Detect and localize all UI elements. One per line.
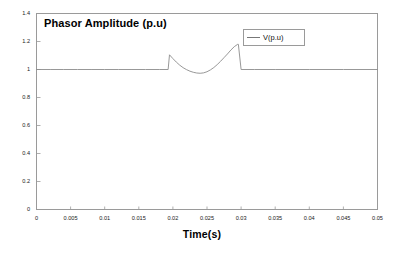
y-tick-label: 0.4 [0,150,30,156]
y-tick-label: 1.2 [0,38,30,44]
y-tick-label: 1 [0,66,30,72]
y-tick-label: 0.2 [0,178,30,184]
legend-line-sample [247,37,260,38]
chart-legend: V(p.u) [243,29,305,46]
x-tick-label: 0.05 [358,215,398,221]
y-tick-label: 0.8 [0,94,30,100]
x-tick-marks [37,207,378,210]
chart-figure: Phasor Amplitude (p.u) 00.20.40.60.811.2… [0,0,404,253]
y-tick-label: 1.4 [0,10,30,16]
chart-title: Phasor Amplitude (p.u) [44,17,167,29]
legend-label-v-pu: V(p.u) [263,33,283,42]
y-tick-marks [37,14,41,210]
series-line-v-pu [37,44,378,73]
x-axis-title: Time(s) [0,228,404,240]
data-series-group [37,44,378,73]
y-tick-label: 0 [0,206,30,212]
y-tick-label: 0.6 [0,122,30,128]
